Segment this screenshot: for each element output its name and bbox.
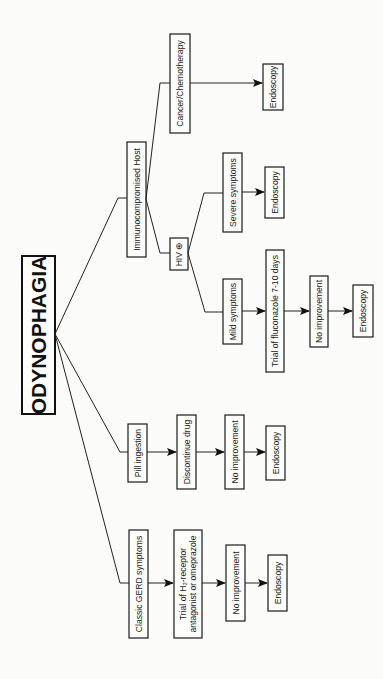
connector-hiv-severe [188,193,223,253]
node-no-improvement-hiv: No improvement [310,276,328,347]
svg-text:Pill ingestion: Pill ingestion [133,429,143,477]
connector-title-gerd [55,334,129,583]
svg-text:Endoscopy: Endoscopy [268,65,278,108]
node-pill-ingestion: Pill ingestion [128,424,147,482]
node-classic-gerd: Classic GERD symptoms [129,530,148,638]
svg-text:Trial of H₂-receptor: Trial of H₂-receptor [178,548,188,620]
svg-text:HIV ⊕: HIV ⊕ [174,242,184,267]
svg-text:No improvement: No improvement [231,551,241,615]
connector-title-pill [55,334,128,452]
odynophagia-flowchart: ODYNOPHAGIA Immunocompromised Host Cance… [0,0,383,679]
svg-text:Endoscopy: Endoscopy [358,289,368,332]
svg-text:Trial of fluconazole 7-10 days: Trial of fluconazole 7-10 days [270,255,280,367]
connector-immuno-cancer [146,83,170,199]
connector-title-immuno [55,198,127,334]
node-severe-symptoms: Severe symptoms [223,153,242,232]
node-immunocompromised-host: Immunocompromised Host [127,142,146,257]
node-mild-symptoms: Mild symptoms [223,279,242,344]
svg-text:Endoscopy: Endoscopy [271,431,281,474]
node-hiv-positive: HIV ⊕ [170,238,188,270]
node-endoscopy-gerd: Endoscopy [268,555,287,611]
svg-text:antagonist or omeprazole: antagonist or omeprazole [188,535,198,632]
title-text: ODYNOPHAGIA [27,256,50,415]
node-endoscopy-mild: Endoscopy [353,285,373,337]
svg-text:Discontinue drug: Discontinue drug [182,420,192,485]
node-cancer-chemotherapy: Cancer/Chemotherapy [170,34,190,133]
connector-immuno-hiv [146,199,170,253]
svg-text:Endoscopy: Endoscopy [270,171,280,214]
connector-hiv-mild [188,253,223,312]
node-endoscopy-pill: Endoscopy [266,426,285,480]
svg-text:Cancer/Chemotherapy: Cancer/Chemotherapy [175,40,185,127]
node-no-improvement-pill: No improvement [225,415,244,489]
title-node: ODYNOPHAGIA [22,256,55,415]
node-discontinue-drug: Discontinue drug [177,415,196,489]
svg-text:No improvement: No improvement [230,420,240,484]
svg-text:Endoscopy: Endoscopy [273,561,283,604]
svg-text:Classic GERD symptoms: Classic GERD symptoms [134,536,144,632]
node-trial-h2-antagonist: Trial of H₂-receptor antagonist or omepr… [174,530,202,638]
svg-text:Mild symptoms: Mild symptoms [228,283,238,340]
node-no-improvement-gerd: No improvement [226,545,245,621]
svg-text:Severe symptoms: Severe symptoms [228,158,238,227]
svg-text:Immunocompromised Host: Immunocompromised Host [132,148,142,251]
node-endoscopy-severe: Endoscopy [265,167,284,218]
node-trial-fluconazole: Trial of fluconazole 7-10 days [266,250,284,372]
node-endoscopy-cancer: Endoscopy [263,64,283,110]
svg-text:No improvement: No improvement [314,279,324,343]
